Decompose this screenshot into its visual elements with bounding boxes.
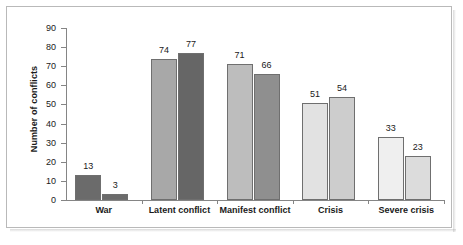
x-tick-separator xyxy=(142,200,143,204)
y-tick-20 xyxy=(61,162,66,163)
bar-value-label: 13 xyxy=(69,162,107,171)
chart-figure: Number of conflicts 0102030405060708090 … xyxy=(0,0,463,245)
x-tick-separator xyxy=(444,200,445,204)
bar xyxy=(178,53,204,200)
x-axis-label-crisis: Crisis xyxy=(293,205,369,215)
y-tick-50 xyxy=(61,104,66,105)
y-tick-90 xyxy=(61,28,66,29)
bar xyxy=(151,59,177,200)
frame-shadow-right xyxy=(453,10,456,232)
bar xyxy=(329,97,355,200)
x-axis-label-severe-crisis: Severe crisis xyxy=(368,205,444,215)
bar-value-label: 71 xyxy=(221,51,259,60)
x-tick-separator xyxy=(293,200,294,204)
bar xyxy=(227,64,253,200)
y-tick-label-40: 40 xyxy=(16,120,56,129)
bar xyxy=(254,74,280,200)
y-tick-label-20: 20 xyxy=(16,158,56,167)
y-tick-30 xyxy=(61,143,66,144)
bar-value-label: 54 xyxy=(323,84,361,93)
y-tick-40 xyxy=(61,124,66,125)
y-tick-label-70: 70 xyxy=(16,62,56,71)
y-tick-70 xyxy=(61,66,66,67)
x-axis-label-war: War xyxy=(66,205,142,215)
bar-value-label: 23 xyxy=(399,143,437,152)
bar xyxy=(302,103,328,200)
bar xyxy=(102,194,128,200)
bar-value-label: 66 xyxy=(248,61,286,70)
y-tick-label-60: 60 xyxy=(16,81,56,90)
x-axis-label-manifest-conflict: Manifest conflict xyxy=(217,205,293,215)
y-tick-60 xyxy=(61,85,66,86)
y-tick-label-10: 10 xyxy=(16,177,56,186)
bar xyxy=(405,156,431,200)
bar-value-label: 33 xyxy=(372,124,410,133)
x-tick-separator xyxy=(368,200,369,204)
bar-value-label: 3 xyxy=(96,181,134,190)
y-tick-label-80: 80 xyxy=(16,43,56,52)
x-axis-line xyxy=(66,200,445,201)
y-tick-80 xyxy=(61,47,66,48)
y-tick-label-50: 50 xyxy=(16,100,56,109)
y-tick-10 xyxy=(61,181,66,182)
y-axis-line xyxy=(66,28,67,201)
frame-shadow-bottom xyxy=(10,229,456,232)
bar-value-label: 77 xyxy=(172,40,210,49)
y-tick-label-30: 30 xyxy=(16,139,56,148)
x-tick-separator xyxy=(217,200,218,204)
y-tick-0 xyxy=(61,200,66,201)
y-tick-label-0: 0 xyxy=(16,196,56,205)
x-axis-label-latent-conflict: Latent conflict xyxy=(142,205,218,215)
y-tick-label-90: 90 xyxy=(16,24,56,33)
